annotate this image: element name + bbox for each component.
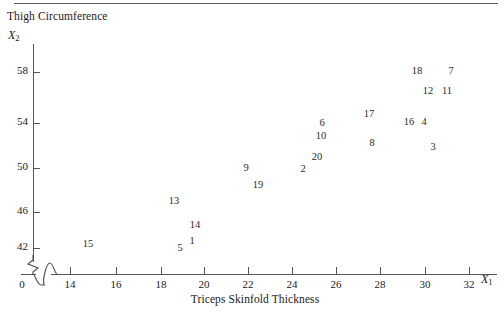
- x-axis-line: [51, 274, 497, 275]
- y-axis-tick: [33, 123, 40, 124]
- x-axis-tick: [336, 267, 337, 274]
- x-axis-title: Triceps Skinfold Thickness: [155, 293, 355, 305]
- y-axis-tick-label: 58: [0, 64, 28, 76]
- y-axis-tick: [33, 212, 40, 213]
- x-axis-tick: [70, 267, 71, 274]
- data-point-label: 18: [412, 65, 423, 76]
- data-point-label: 13: [169, 195, 180, 206]
- data-point-label: 16: [404, 116, 415, 127]
- scatter-plot-area: 5854504642 14161820222426283032 0 151314…: [0, 0, 504, 316]
- data-point-label: 7: [448, 65, 453, 76]
- x-axis-tick-label: 24: [277, 278, 307, 290]
- data-point-label: 8: [369, 137, 374, 148]
- data-point-label: 17: [364, 108, 375, 119]
- x-axis-tick: [425, 267, 426, 274]
- data-point-label: 1: [189, 235, 194, 246]
- x-axis-tick-label: 20: [189, 278, 219, 290]
- data-point-label: 4: [421, 116, 426, 127]
- x-axis-tick: [469, 267, 470, 274]
- data-point-label: 19: [253, 179, 264, 190]
- data-point-label: 3: [430, 141, 435, 152]
- data-point-label: 10: [316, 130, 327, 141]
- x-axis-tick: [248, 267, 249, 274]
- x-axis-tick-label: 26: [321, 278, 351, 290]
- x-axis-tick-label: 30: [410, 278, 440, 290]
- y-axis-tick-label: 42: [0, 240, 28, 252]
- y-axis-tick: [33, 72, 40, 73]
- y-axis-tick: [33, 248, 40, 249]
- x-axis-tick: [116, 267, 117, 274]
- x-axis-tick: [380, 267, 381, 274]
- x-axis-tick-label: 28: [365, 278, 395, 290]
- x-axis-break-icon: [33, 263, 57, 285]
- x-axis-tick-label: 32: [454, 278, 484, 290]
- x-axis-tick: [161, 267, 162, 274]
- x-axis-tick-label: 22: [233, 278, 263, 290]
- x-axis-tick: [292, 267, 293, 274]
- x-axis-tick-label: 18: [146, 278, 176, 290]
- origin-tick-label: 0: [12, 278, 32, 290]
- data-point-label: 9: [243, 162, 248, 173]
- data-point-label: 11: [442, 85, 452, 96]
- x-axis-tick-label: 16: [101, 278, 131, 290]
- data-point-label: 15: [83, 238, 94, 249]
- data-point-label: 5: [177, 242, 182, 253]
- y-axis-tick-label: 50: [0, 160, 28, 172]
- y-axis-tick-label: 46: [0, 204, 28, 216]
- x-axis-tick-label: 14: [55, 278, 85, 290]
- data-point-label: 2: [300, 163, 305, 174]
- data-point-label: 20: [312, 151, 323, 162]
- data-point-label: 6: [319, 117, 324, 128]
- figure-page: Thigh Circumference X2 X1 5854504642 141…: [0, 0, 504, 316]
- data-point-label: 12: [423, 85, 434, 96]
- y-axis-tick: [33, 168, 40, 169]
- y-axis-line: [33, 44, 34, 262]
- y-axis-tick-label: 54: [0, 115, 28, 127]
- x-axis-tick: [204, 267, 205, 274]
- data-point-label: 14: [190, 219, 201, 230]
